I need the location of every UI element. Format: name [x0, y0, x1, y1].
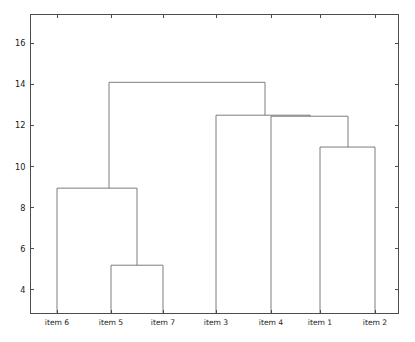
dendrogram-plot: 46810121416item 6item 5item 7item 3item …	[0, 0, 415, 342]
xtick-label-item-7: item 7	[151, 318, 176, 327]
xtick-label-item-6: item 6	[45, 318, 70, 327]
xtick-label-item-1: item 1	[308, 318, 333, 327]
dendrogram-link-m5	[216, 115, 310, 313]
dendrogram-link-m6	[109, 82, 265, 188]
dendrogram-link-m2	[57, 188, 137, 313]
xtick-label-item-2: item 2	[363, 318, 388, 327]
ytick-label-6: 6	[20, 244, 25, 254]
dendrogram-link-m4	[271, 116, 348, 313]
dendrogram-link-m3	[320, 147, 375, 313]
ytick-label-14: 14	[15, 79, 25, 89]
xtick-label-item-3: item 3	[204, 318, 229, 327]
dendrogram-figure: 46810121416item 6item 5item 7item 3item …	[0, 0, 415, 342]
ytick-label-12: 12	[15, 120, 25, 130]
dendrogram-link-m1	[111, 265, 163, 313]
ytick-label-8: 8	[20, 203, 25, 213]
ytick-label-16: 16	[15, 38, 25, 48]
xtick-label-item-4: item 4	[259, 318, 284, 327]
ytick-label-4: 4	[20, 285, 25, 295]
xtick-label-item-5: item 5	[99, 318, 124, 327]
plot-axes-frame	[31, 15, 399, 314]
ytick-label-10: 10	[15, 162, 25, 172]
